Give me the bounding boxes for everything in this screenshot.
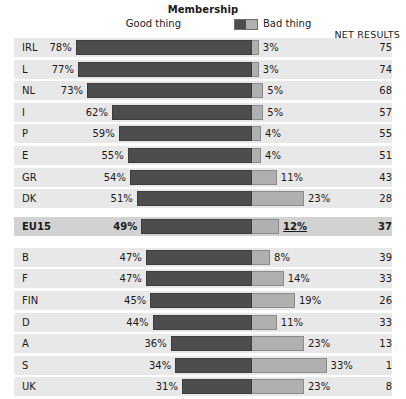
good-thing-value: 49% (113, 217, 137, 236)
net-result-value: 26 (379, 291, 392, 310)
table-row: FIN45%19%26 (0, 291, 406, 310)
bad-thing-value: 33% (331, 356, 353, 375)
table-row: S34%33%1 (0, 356, 406, 375)
row-label: D (22, 313, 30, 332)
net-result-value: 39 (379, 248, 392, 267)
row-label: L (22, 60, 28, 79)
legend-label-bad-thing: Bad thing (263, 18, 311, 29)
chart-rows: IRL78%3%75L77%3%74NL73%5%68I62%5%57P59%4… (0, 38, 406, 399)
row-label: NL (22, 81, 35, 100)
bad-thing-value: 14% (288, 269, 310, 288)
table-row: DK51%23%28 (0, 189, 406, 208)
table-row: I62%5%57 (0, 103, 406, 122)
bad-thing-bar (252, 219, 279, 234)
row-label: IRL (22, 38, 37, 57)
bad-thing-value: 4% (265, 146, 281, 165)
bad-thing-bar (252, 358, 327, 373)
bad-thing-value: 4% (265, 124, 281, 143)
good-thing-value: 55% (101, 146, 123, 165)
net-result-value: 1 (386, 356, 392, 375)
table-row: NL73%5%68 (0, 81, 406, 100)
table-row: EU1549%12%37 (0, 217, 406, 236)
bad-thing-value: 23% (308, 334, 330, 353)
good-thing-value: 78% (50, 38, 72, 57)
net-result-value: 51 (379, 146, 392, 165)
bad-thing-value: 19% (299, 291, 321, 310)
table-row: IRL78%3%75 (0, 38, 406, 57)
row-label: F (22, 269, 28, 288)
net-result-value: 33 (379, 269, 392, 288)
good-thing-value: 77% (52, 60, 74, 79)
table-row: B47%8%39 (0, 248, 406, 267)
good-thing-bar (112, 105, 252, 120)
net-result-value: 55 (379, 124, 392, 143)
good-thing-value: 44% (126, 313, 148, 332)
good-thing-bar (87, 83, 252, 98)
net-result-value: 43 (379, 168, 392, 187)
chart-title: Membership (0, 4, 406, 15)
good-thing-bar (137, 191, 252, 206)
row-label: GR (22, 168, 37, 187)
good-thing-bar (119, 126, 252, 141)
bad-thing-bar (252, 126, 261, 141)
good-thing-value: 36% (144, 334, 166, 353)
good-thing-bar (182, 379, 252, 394)
table-row: P59%4%55 (0, 124, 406, 143)
good-thing-bar (76, 40, 252, 55)
bad-thing-value: 3% (263, 60, 279, 79)
net-result-value: 68 (379, 81, 392, 100)
row-label: P (22, 124, 28, 143)
table-row: L77%3%74 (0, 60, 406, 79)
net-result-value: 37 (378, 217, 392, 236)
good-thing-bar (146, 250, 252, 265)
table-row: F47%14%33 (0, 269, 406, 288)
table-row: D44%11%33 (0, 313, 406, 332)
bad-thing-bar (252, 271, 284, 286)
good-thing-bar (78, 62, 252, 77)
net-result-value: 74 (379, 60, 392, 79)
bad-thing-value: 5% (267, 81, 283, 100)
bad-thing-value: 23% (308, 377, 330, 396)
good-thing-value: 62% (86, 103, 108, 122)
bad-thing-bar (252, 62, 259, 77)
legend-swatch-bad-icon (246, 20, 257, 29)
row-label: E (22, 146, 28, 165)
bad-thing-bar (252, 250, 270, 265)
good-thing-bar (130, 170, 252, 185)
row-label: I (22, 103, 25, 122)
bad-thing-bar (252, 40, 259, 55)
bad-thing-bar (252, 293, 295, 308)
bad-thing-value: 5% (267, 103, 283, 122)
bad-thing-bar (252, 379, 304, 394)
net-result-value: 57 (379, 103, 392, 122)
legend-label-good-thing: Good thing (126, 18, 181, 29)
table-row: UK31%23%8 (0, 377, 406, 396)
good-thing-value: 34% (149, 356, 171, 375)
good-thing-value: 47% (120, 269, 142, 288)
good-thing-bar (128, 148, 252, 163)
row-label: UK (22, 377, 36, 396)
bad-thing-value: 12% (283, 217, 307, 236)
net-result-value: 75 (379, 38, 392, 57)
table-row: A36%23%13 (0, 334, 406, 353)
bad-thing-bar (252, 170, 277, 185)
net-result-value: 13 (379, 334, 392, 353)
bad-thing-value: 11% (281, 313, 303, 332)
good-thing-value: 47% (120, 248, 142, 267)
bad-thing-value: 8% (274, 248, 290, 267)
good-thing-bar (146, 271, 252, 286)
good-thing-value: 45% (124, 291, 146, 310)
good-thing-value: 59% (92, 124, 114, 143)
table-row: GR54%11%43 (0, 168, 406, 187)
bad-thing-bar (252, 148, 261, 163)
row-label: B (22, 248, 29, 267)
good-thing-value: 31% (156, 377, 178, 396)
bad-thing-value: 3% (263, 38, 279, 57)
row-label: FIN (22, 291, 38, 310)
row-label: S (22, 356, 28, 375)
bad-thing-value: 11% (281, 168, 303, 187)
good-thing-bar (171, 336, 252, 351)
bad-thing-bar (252, 105, 263, 120)
good-thing-value: 51% (111, 189, 133, 208)
